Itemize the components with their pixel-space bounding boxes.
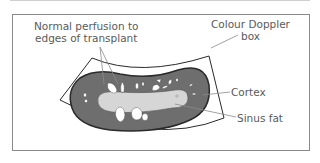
doppler-label-line2: box [211,30,290,42]
perfusion-label-line2: edges of transplant [34,32,138,44]
sinus-fat-label: Sinus fat [237,112,283,124]
cortex-label: Cortex [231,86,266,98]
perfusion-label: Normal perfusion to edges of transplant [34,20,138,44]
perfusion-label-line1: Normal perfusion to [34,20,138,32]
doppler-box-label: Colour Doppler box [211,18,290,42]
doppler-label-line1: Colour Doppler [211,18,290,30]
